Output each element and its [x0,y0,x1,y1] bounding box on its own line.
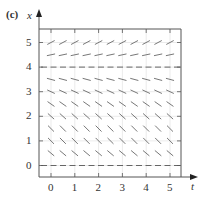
slope-segment [108,126,114,132]
slope-segment [155,126,161,132]
x-tick-label: 0 [26,160,32,171]
x-tick-label: 2 [26,110,32,121]
slope-segment [59,78,67,80]
slope-segment [83,78,91,80]
t-tick-label: 3 [119,182,125,193]
slope-segment [155,102,162,107]
slope-segment [60,126,66,132]
y-axis-name: x [27,10,32,21]
t-tick-label: 1 [72,182,78,193]
slope-segment [59,54,67,56]
slope-segment [83,151,89,156]
t-tick-label: 4 [143,182,149,193]
x-tick-label: 5 [26,37,32,48]
t-tick-label: 5 [167,182,173,193]
slope-segment [130,54,138,56]
slope-segment [154,54,162,56]
x-tick-label: 4 [26,61,32,72]
slope-segment [107,151,113,156]
t-tick-label: 2 [96,182,102,193]
t-tick-label: 0 [48,182,54,193]
slope-segment [106,54,114,56]
slope-segment [131,126,137,132]
slope-segments [41,41,180,166]
slope-segment [131,102,138,107]
slope-segment [130,78,138,80]
x-tick-label: 3 [26,86,32,97]
slope-segment [155,151,161,156]
slope-segment [83,102,90,107]
slope-segment [106,78,114,80]
slope-segment [60,151,66,156]
slope-segment [107,102,114,107]
x-axis-name: t [191,181,194,192]
slope-segment [84,126,90,132]
slope-segment [83,54,91,56]
slope-segment [131,151,137,156]
axes [36,9,198,180]
slope-segment [154,78,162,80]
x-tick-label: 1 [26,135,32,146]
y-axis-arrow-icon [36,9,42,17]
slope-segment [59,102,66,107]
panel-label: (c) [6,9,18,20]
